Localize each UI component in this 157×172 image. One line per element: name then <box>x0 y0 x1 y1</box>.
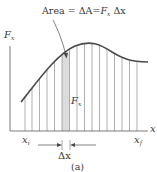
strip-height-label: Fx <box>71 96 81 107</box>
x-axis-label: x <box>150 124 156 134</box>
area-pointer-line <box>53 20 66 56</box>
x-start-label: xi <box>22 135 30 146</box>
area-word: Area <box>42 5 65 16</box>
delta-x: Δx <box>113 5 125 16</box>
x-end-label-sub: f <box>140 139 142 146</box>
figure-caption: (a) <box>71 162 84 172</box>
y-axis-label: Fx <box>4 30 14 41</box>
width-label: Δx <box>58 151 71 161</box>
diagram-graphics <box>0 0 157 172</box>
work-area-diagram: Area = ΔA=Fx Δx Fx x Fx xi xf Δx (a) <box>0 0 157 172</box>
x-end-label: xf <box>134 135 142 146</box>
y-axis-label-sub: x <box>11 34 14 41</box>
dx-right-arrowhead <box>70 143 75 147</box>
y-axis-label-main: F <box>4 29 11 40</box>
force-subscript: x <box>107 10 110 17</box>
highlighted-strip <box>62 52 70 131</box>
dx-left-arrowhead <box>57 143 62 147</box>
strip-height-label-main: F <box>71 95 78 106</box>
strip-height-label-sub: x <box>78 100 81 107</box>
x-start-label-sub: i <box>28 139 30 146</box>
delta-a: ΔA <box>79 5 93 16</box>
area-annotation: Area = ΔA=Fx Δx <box>42 6 126 17</box>
equals-1: = <box>68 5 76 16</box>
